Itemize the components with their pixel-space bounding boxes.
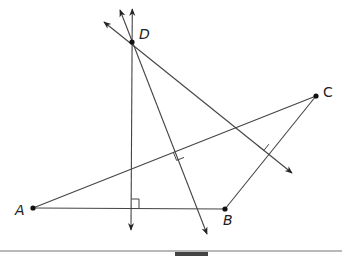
segment-ac — [33, 96, 316, 208]
right-angle-marker-bc — [258, 144, 269, 150]
point-d — [129, 39, 134, 44]
segment-bc — [225, 96, 316, 209]
label-d: D — [139, 26, 150, 42]
segment-ab — [33, 208, 225, 209]
bottom-divider — [0, 250, 342, 252]
right-angle-marker-ac — [174, 153, 184, 160]
point-c — [313, 93, 318, 98]
right-angle-marker-ab — [131, 199, 139, 208]
bottom-scroll-indicator — [175, 252, 208, 256]
point-a — [30, 205, 35, 210]
point-b — [222, 206, 227, 211]
label-c: C — [323, 84, 333, 100]
label-a: A — [14, 202, 25, 218]
label-b: B — [223, 212, 233, 228]
geometry-diagram: A B C D — [0, 0, 342, 256]
